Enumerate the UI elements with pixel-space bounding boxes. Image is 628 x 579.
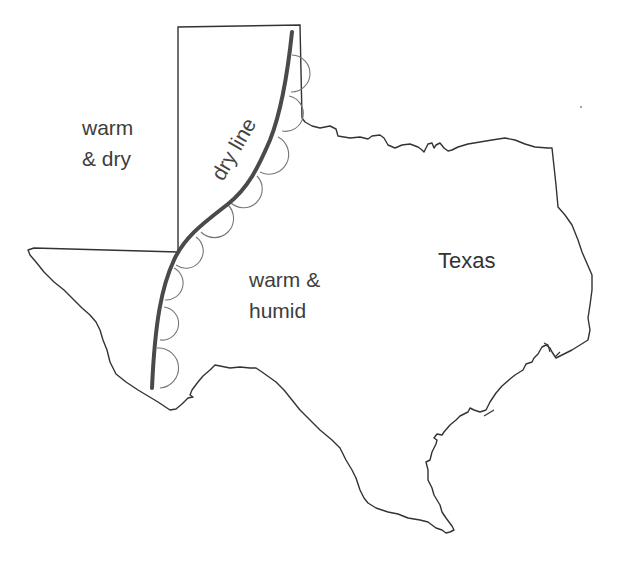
warm-dry-line-1: warm (82, 112, 133, 143)
warm-dry-line-2: & dry (82, 143, 133, 174)
dryline-scallops (157, 55, 310, 388)
warm-humid-label: warm & humid (249, 264, 320, 326)
warm-humid-line-1: warm & (249, 264, 320, 295)
texas-label: Texas (438, 245, 495, 276)
warm-dry-label: warm & dry (82, 112, 133, 174)
stray-dot (580, 106, 582, 108)
dry-line (152, 32, 292, 388)
warm-humid-line-2: humid (249, 295, 320, 326)
